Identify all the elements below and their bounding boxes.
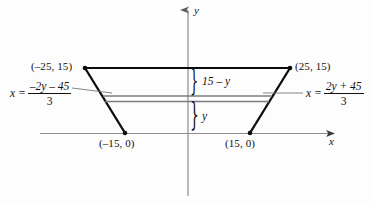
upper-segment-label: 15 – y: [202, 76, 230, 88]
leader-line-bottom-left-label: [119, 123, 125, 132]
leader-line-left-equation: [72, 88, 112, 93]
vertex-dot-top-right: [288, 66, 293, 71]
left-boundary-equation: x = –2y – 45 3: [10, 80, 71, 107]
vertex-label-top-right: (25, 15): [295, 61, 331, 72]
right-equation-numerator: 2y + 45: [324, 80, 364, 94]
right-boundary-equation: x = 2y + 45 3: [306, 80, 364, 107]
left-equation-fraction: –2y – 45 3: [28, 80, 72, 107]
left-equation-denominator: 3: [45, 94, 55, 107]
left-equation-lhs: x =: [10, 88, 26, 100]
leader-line-bottom-right-label: [250, 123, 256, 132]
vertex-label-bottom-left: (–15, 0): [99, 138, 135, 149]
x-axis-label: x: [329, 136, 334, 147]
vertex-label-top-left: (–25, 15): [31, 61, 72, 72]
vertex-dot-top-left: [83, 66, 88, 71]
right-equation-denominator: 3: [339, 94, 349, 107]
figure-canvas: y x (–25, 15) (25, 15) (–15, 0) (15, 0) …: [0, 0, 373, 203]
right-equation-fraction: 2y + 45 3: [324, 80, 364, 107]
right-equation-lhs: x =: [306, 88, 322, 100]
lower-segment-label: y: [202, 111, 207, 123]
vertex-label-bottom-right: (15, 0): [225, 138, 255, 149]
y-axis-label: y: [194, 5, 199, 16]
upper-segment-brace: }: [190, 65, 198, 94]
lower-segment-brace: }: [190, 99, 199, 130]
left-equation-numerator: –2y – 45: [28, 80, 72, 94]
